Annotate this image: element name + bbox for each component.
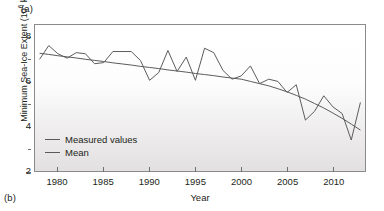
- x-tick-mark: [333, 167, 334, 172]
- x-tick-mark: [103, 167, 104, 172]
- x-tick-label: 1980: [37, 176, 77, 187]
- x-tick-mark: [241, 167, 242, 172]
- x-axis-ticks: 1980198519901995200020052010: [0, 0, 384, 211]
- x-tick-label: 1995: [175, 176, 215, 187]
- x-tick-mark: [57, 167, 58, 172]
- x-axis-label: Year: [34, 192, 366, 203]
- x-tick-label: 1985: [83, 176, 123, 187]
- x-tick-label: 2005: [268, 176, 308, 187]
- x-tick-mark: [149, 167, 150, 172]
- legend-item-measured-values: Measured values: [45, 133, 137, 146]
- figure-panel-a: (a) (b) Minimum Sea-Ice Extent (106 km²)…: [0, 0, 384, 211]
- x-tick-label: 2010: [314, 176, 354, 187]
- x-tick-label: 2000: [222, 176, 262, 187]
- legend-swatch-icon-measured: [45, 139, 60, 140]
- chart-legend: Measured values Mean: [45, 133, 137, 159]
- legend-label-mean: Mean: [65, 146, 89, 159]
- x-tick-label: 1990: [129, 176, 169, 187]
- legend-item-mean: Mean: [45, 146, 137, 159]
- legend-label-measured: Measured values: [65, 133, 137, 146]
- x-tick-mark: [287, 167, 288, 172]
- x-tick-mark: [195, 167, 196, 172]
- legend-swatch-icon-mean: [45, 152, 60, 153]
